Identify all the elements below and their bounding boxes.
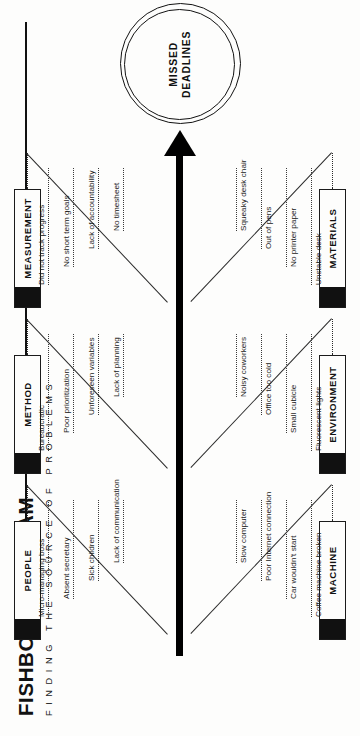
- cause-label: Squeaky desk chair: [239, 159, 248, 231]
- cause-label: Micro-managing boss: [37, 539, 46, 617]
- stem-method: [27, 319, 28, 355]
- cause-line: [261, 334, 262, 415]
- category-tab-icon: [15, 287, 40, 307]
- cause-line: [286, 168, 287, 267]
- cause-label: Out of pens: [264, 207, 273, 249]
- cause-line: [123, 168, 124, 231]
- cause-label: No timesheet: [112, 183, 121, 231]
- cause-line: [123, 500, 124, 563]
- stem-environment: [332, 319, 333, 355]
- cause-line: [261, 500, 262, 581]
- cause-label: Unstable desk: [314, 233, 323, 285]
- cause-label: Unforeseen variables: [87, 338, 96, 415]
- category-tab-icon: [320, 453, 345, 473]
- cause-label: Car wouldn't start: [289, 535, 298, 599]
- category-tab-icon: [15, 619, 40, 639]
- stem-people: [27, 485, 28, 521]
- cause-label: Did not track progress: [37, 205, 46, 285]
- cause-label: No short term goals: [62, 195, 71, 267]
- effect-circle-inner: MISSED DEADLINES: [124, 9, 235, 120]
- category-label: ENVIRONMENT: [327, 356, 338, 453]
- cause-label: Lack of accountability: [87, 171, 96, 249]
- cause-label: Bureaucratic: [37, 405, 46, 451]
- cause-label: Fluorescent lights: [314, 387, 323, 451]
- spine-arrowhead-icon: [164, 130, 196, 156]
- cause-line: [286, 500, 287, 599]
- cause-line: [236, 500, 237, 563]
- effect-label-line2: DEADLINES: [181, 31, 192, 98]
- cause-line: [98, 168, 99, 249]
- cause-line: [236, 334, 237, 397]
- cause-line: [73, 334, 74, 433]
- cause-label: Small cubicle: [289, 385, 298, 433]
- effect-circle: MISSED DEADLINES: [120, 3, 241, 124]
- cause-line: [286, 334, 287, 433]
- cause-line: [261, 168, 262, 249]
- category-box-machine[interactable]: MACHINE: [319, 521, 346, 640]
- cause-label: Lack of planning: [112, 337, 121, 397]
- cause-line: [73, 500, 74, 599]
- stem-measurement: [27, 153, 28, 189]
- cause-line: [98, 334, 99, 415]
- cause-label: Slow computer: [239, 509, 248, 563]
- category-label: MATERIALS: [327, 190, 338, 287]
- category-tab-icon: [320, 287, 345, 307]
- stem-materials: [332, 153, 333, 189]
- cause-label: Office too cold: [264, 363, 273, 415]
- cause-line: [98, 500, 99, 581]
- effect-label-line1: MISSED: [168, 42, 179, 87]
- fishbone-spine: [176, 151, 183, 656]
- cause-label: Sick children: [87, 534, 96, 581]
- category-label: PEOPLE: [22, 522, 33, 619]
- category-label: MEASUREMENT: [22, 190, 33, 287]
- category-tab-icon: [15, 453, 40, 473]
- cause-label: Poor Internet connection: [264, 492, 273, 581]
- cause-label: Noisy coworkers: [239, 337, 248, 397]
- category-box-materials[interactable]: MATERIALS: [319, 189, 346, 308]
- cause-label: Poor prioritization: [62, 369, 71, 433]
- stem-machine: [332, 485, 333, 521]
- cause-line: [311, 334, 312, 451]
- cause-label: Lack of communication: [112, 479, 121, 563]
- cause-label: Absent secretary: [62, 537, 71, 599]
- cause-line: [236, 168, 237, 231]
- cause-line: [311, 168, 312, 285]
- category-tab-icon: [320, 619, 345, 639]
- cause-line: [48, 500, 49, 617]
- cause-line: [73, 168, 74, 267]
- fishbone-poster: FISHBONE DIAGRAM FINDING THE SOURCE OF P…: [0, 0, 360, 736]
- effect-label: MISSED DEADLINES: [167, 31, 193, 98]
- cause-label: No printer paper: [289, 208, 298, 267]
- cause-line: [123, 334, 124, 397]
- cause-label: Coffee machine broken: [314, 532, 323, 617]
- cause-line: [48, 334, 49, 451]
- category-label: MACHINE: [327, 522, 338, 619]
- diagram-viewport: FISHBONE DIAGRAM FINDING THE SOURCE OF P…: [0, 0, 360, 736]
- category-label: METHOD: [22, 356, 33, 453]
- cause-line: [311, 500, 312, 617]
- cause-line: [48, 168, 49, 285]
- category-box-environment[interactable]: ENVIRONMENT: [319, 355, 346, 474]
